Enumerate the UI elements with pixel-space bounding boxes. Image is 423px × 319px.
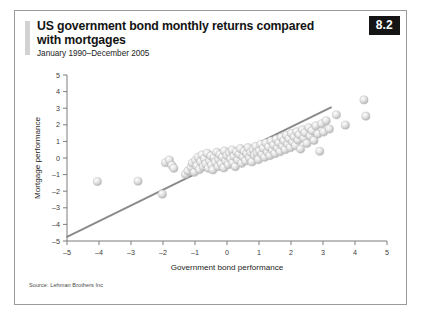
y-tick-label: –1 xyxy=(52,170,60,179)
y-tick-label: 3 xyxy=(56,104,60,113)
x-tick-label: –4 xyxy=(95,248,103,257)
page-title: US government bond monthly returns compa… xyxy=(25,19,325,47)
data-point xyxy=(316,147,324,155)
title-block: US government bond monthly returns compa… xyxy=(25,19,325,59)
x-tick-label: –1 xyxy=(191,248,199,257)
x-tick-label: –2 xyxy=(159,248,167,257)
y-tick-label: –5 xyxy=(52,237,60,246)
y-tick-label: 0 xyxy=(56,154,60,163)
x-tick-label: 5 xyxy=(385,248,389,257)
x-tick-label: 4 xyxy=(353,248,357,257)
x-tick-label: 0 xyxy=(225,248,229,257)
data-point xyxy=(360,96,368,104)
y-tick-label: 1 xyxy=(56,137,60,146)
scatter-chart-svg: –5–4–3–2–1012345–5–4–3–2–1012345Governme… xyxy=(15,69,408,279)
x-tick-label: –3 xyxy=(127,248,135,257)
data-point xyxy=(341,121,349,129)
y-axis-title: Mortgage performance xyxy=(33,117,42,199)
source-note: Source: Lehman Brothers Inc xyxy=(29,282,103,288)
x-axis-title: Government bond performance xyxy=(171,263,284,272)
data-point xyxy=(362,112,370,120)
y-tick-label: –4 xyxy=(52,220,60,229)
data-point xyxy=(332,111,340,119)
data-point xyxy=(297,145,305,153)
y-tick-label: 4 xyxy=(56,87,60,96)
y-tick-label: –3 xyxy=(52,203,60,212)
data-point xyxy=(322,117,330,125)
data-point xyxy=(158,190,166,198)
y-tick-label: 5 xyxy=(56,71,60,80)
x-tick-label: 3 xyxy=(321,248,325,257)
data-point xyxy=(93,177,101,185)
y-tick-label: 2 xyxy=(56,120,60,129)
data-point xyxy=(170,164,178,172)
figure-number-badge: 8.2 xyxy=(369,16,400,35)
figure-panel: US government bond monthly returns compa… xyxy=(14,10,407,305)
data-point xyxy=(325,125,333,133)
chart-plot-area: –5–4–3–2–1012345–5–4–3–2–1012345Governme… xyxy=(15,69,408,279)
x-tick-label: 1 xyxy=(257,248,261,257)
x-tick-label: –5 xyxy=(63,248,71,257)
subtitle: January 1990–December 2005 xyxy=(25,49,325,59)
data-points-layer xyxy=(93,96,370,198)
y-tick-label: –2 xyxy=(52,187,60,196)
title-accent-bar xyxy=(25,21,30,55)
x-tick-label: 2 xyxy=(289,248,293,257)
data-point xyxy=(134,177,142,185)
